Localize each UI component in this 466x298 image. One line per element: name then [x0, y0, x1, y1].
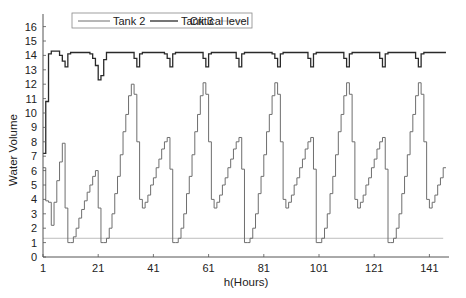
x-tick-label: 81 [258, 262, 270, 274]
x-tick-label: 101 [310, 262, 328, 274]
x-tick-label: 21 [92, 262, 104, 274]
y-tick-label: 1 [31, 237, 37, 249]
legend: Tank 2 Tank 3 Critical level [72, 13, 252, 28]
water-volume-chart: 012345678910111213141516 121416181101121… [0, 0, 466, 298]
x-axis-title: h(Hours) [224, 276, 269, 288]
y-axis-title: Water Volume [7, 114, 19, 186]
y-tick-label: 6 [31, 165, 37, 177]
series-tank-2-line [43, 83, 446, 243]
y-tick-label: 5 [31, 179, 37, 191]
x-tick-label: 41 [147, 262, 159, 274]
y-tick-label: 14 [25, 49, 37, 61]
y-tick-label: 12 [25, 78, 37, 90]
x-tick-label: 61 [202, 262, 214, 274]
series-layer [43, 51, 446, 243]
y-tick-label: 13 [25, 64, 37, 76]
y-tick-label: 15 [25, 35, 37, 47]
y-tick-label: 3 [31, 208, 37, 220]
y-tick-label: 8 [31, 136, 37, 148]
y-tick-label: 11 [26, 93, 37, 105]
y-tick-label: 7 [31, 150, 37, 162]
x-tick-label: 121 [365, 262, 383, 274]
x-tick-label: 1 [40, 262, 46, 274]
y-tick-label: 16 [25, 21, 37, 33]
x-tick-label: 141 [420, 262, 438, 274]
y-tick-label: 2 [31, 222, 37, 234]
y-tick-label: 4 [31, 193, 37, 205]
legend-label-critical-level: Critical level [190, 15, 249, 27]
y-tick-label: 9 [31, 121, 37, 133]
y-tick-label: 0 [31, 251, 37, 263]
legend-label-tank-2: Tank 2 [113, 15, 145, 27]
y-tick-label: 10 [25, 107, 37, 119]
